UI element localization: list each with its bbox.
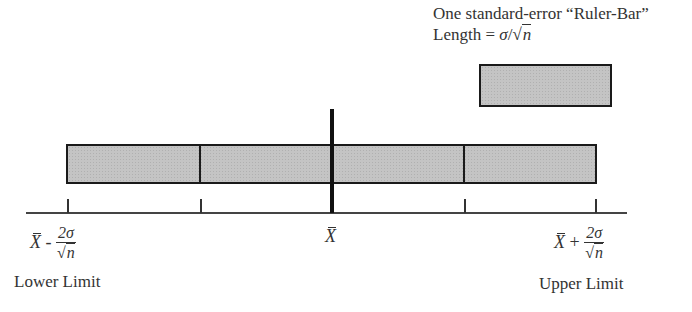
bar-divider-3 [463,145,465,183]
bar-divider-1 [199,145,201,183]
n-symbol: n [522,24,532,44]
sqrt-symbol: √ [512,25,521,44]
lower-limit-formula: X - 2σ√n [30,224,76,263]
two-sigma-over-root-n: 2σ√n [584,224,604,263]
ruler-bar-caption: One standard-error “Ruler-Bar” [433,4,649,24]
tick-minus-one-se [200,199,202,213]
x-bar-symbol: X [325,226,336,246]
single-ruler-bar [479,64,612,107]
tick-upper-limit [595,199,597,213]
two-sigma-over-root-n: 2σ√n [56,224,76,263]
x-bar-symbol: X [30,232,41,252]
minus-operator: - [41,232,56,252]
axis-line [26,212,627,214]
ruler-bar-length-formula: Length = σ/√n [433,25,531,45]
plus-operator: + [565,232,584,252]
x-bar-symbol: X [554,232,565,252]
tick-plus-one-se [464,199,466,213]
center-x-bar-label: X [325,226,336,246]
length-prefix: Length = [433,25,499,44]
tick-lower-limit [67,199,69,213]
lower-limit-label: Lower Limit [14,272,100,292]
sample-mean-line [330,109,334,213]
upper-limit-formula: X + 2σ√n [554,224,604,263]
upper-limit-label: Upper Limit [539,274,624,294]
sigma-symbol: σ [499,25,507,44]
